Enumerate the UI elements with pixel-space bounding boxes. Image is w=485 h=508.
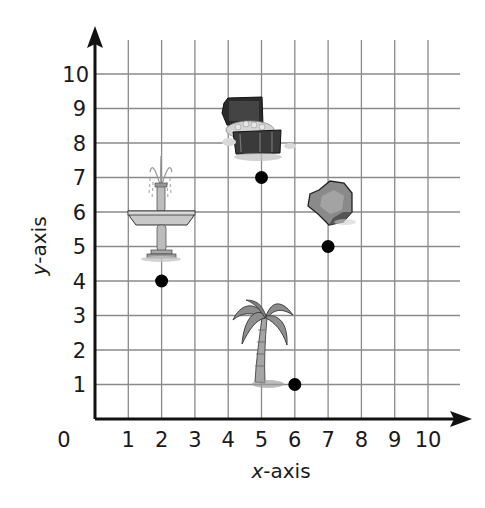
x-tick-label: 6: [288, 428, 301, 452]
x-axis-title: x-axis: [250, 459, 310, 483]
x-tick-label: 5: [255, 428, 268, 452]
y-tick-label: 3: [73, 304, 86, 328]
grid: [95, 40, 460, 419]
x-tick-label: 2: [155, 428, 168, 452]
x-tick-label: 9: [388, 428, 401, 452]
x-tick-label: 8: [355, 428, 368, 452]
x-tick-label: 4: [222, 428, 235, 452]
y-tick-label: 1: [73, 373, 86, 397]
point-7-5: [322, 240, 335, 253]
y-tick-label: 7: [73, 166, 86, 190]
point-6-1: [288, 378, 301, 391]
y-tick-labels: 1 2 3 4 5 6 7 8 9 10: [62, 63, 89, 398]
x-tick-labels: 0 1 2 3 4 5 6 7 8 9 10: [57, 428, 441, 452]
treasure-chest-icon: [222, 97, 296, 161]
y-tick-label: 5: [73, 235, 86, 259]
y-tick-label: 10: [62, 63, 89, 87]
palm-tree-icon: [233, 300, 293, 388]
x-tick-label: 1: [122, 428, 135, 452]
y-tick-label: 4: [73, 270, 86, 294]
point-2-4: [155, 275, 168, 288]
y-tick-label: 9: [73, 97, 86, 121]
y-tick-label: 2: [73, 339, 86, 363]
x-tick-label: 3: [188, 428, 201, 452]
x-tick-label: 7: [321, 428, 334, 452]
y-tick-label: 8: [73, 132, 86, 156]
axes: [87, 26, 472, 427]
origin-label: 0: [57, 428, 70, 452]
y-tick-label: 6: [73, 201, 86, 225]
point-5-7: [255, 171, 268, 184]
y-axis-title: y-axis: [27, 216, 51, 276]
coordinate-plane: 1 2 3 4 5 6 7 8 9 10 0 1 2 3 4 5 6 7 8 9…: [0, 0, 485, 508]
x-tick-label: 10: [415, 428, 442, 452]
rock-icon: [308, 181, 356, 225]
